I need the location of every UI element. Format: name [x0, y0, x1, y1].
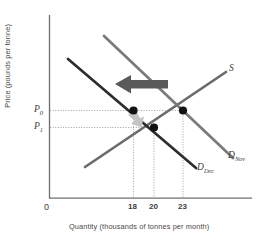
price-label-p1-sub: 1: [40, 126, 43, 133]
x-axis-title: Quantity (thousands of tonnes per month): [69, 223, 209, 230]
y-axis-title: Price (pounds per tonne): [4, 24, 11, 108]
x-tick-label-23: 23: [178, 203, 187, 211]
supply-curve-label: S: [229, 64, 234, 74]
demand-nov-label-base: D: [228, 150, 235, 160]
new-equilibrium-dot: [150, 123, 158, 131]
price-label-p1: P1: [34, 122, 43, 133]
supply-demand-chart: Price (pounds per tonne) Quantity (thous…: [0, 0, 266, 238]
demand-dec-label-sub: Dec: [204, 167, 214, 174]
supply-curve-label-base: S: [229, 63, 234, 73]
initial-equilibrium-dot: [179, 106, 187, 114]
x-tick-label-18: 18: [128, 203, 137, 211]
demand-dec-curve-label: DDec: [197, 163, 214, 174]
x-tick-label-20: 20: [149, 203, 158, 211]
axes: [49, 15, 252, 199]
demand-nov-curve-label: DNov: [228, 151, 245, 162]
point-on-new-demand-dot: [129, 106, 137, 114]
dotted-guides: [50, 111, 183, 199]
origin-label: 0: [44, 203, 49, 212]
price-label-p0: P0: [34, 105, 43, 116]
demand-nov-label-sub: Nov: [235, 155, 245, 162]
demand-dec-label-base: D: [197, 162, 204, 172]
price-label-p0-sub: 0: [40, 109, 43, 116]
